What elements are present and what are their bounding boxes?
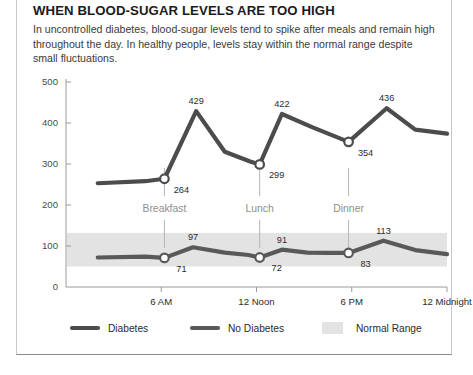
data-value-label: 71 xyxy=(176,264,186,274)
data-value-label: 429 xyxy=(189,96,204,106)
meal-label: Breakfast xyxy=(142,203,186,214)
data-point-marker xyxy=(344,249,353,258)
y-tick-label: 200 xyxy=(42,199,58,210)
data-value-label: 97 xyxy=(188,232,198,242)
data-point-marker xyxy=(344,138,353,147)
x-tick-label: 6 AM xyxy=(150,296,172,307)
legend-label: Normal Range xyxy=(356,323,422,334)
data-value-label: 354 xyxy=(358,148,373,158)
data-value-label: 72 xyxy=(272,263,282,273)
data-value-label: 113 xyxy=(376,226,391,236)
legend-label: Diabetes xyxy=(108,323,148,334)
chart-legend: DiabetesNo DiabetesNormal Range xyxy=(72,322,422,334)
data-point-marker xyxy=(255,160,264,169)
x-tick-label: 12 Midnight xyxy=(422,296,472,307)
y-tick-label: 500 xyxy=(42,76,58,87)
meal-label: Dinner xyxy=(333,203,364,214)
y-tick-label: 0 xyxy=(53,281,58,292)
y-tick-label: 400 xyxy=(42,117,58,128)
blood-sugar-line-chart: 0100200300400500 6 AM12 Noon6 PM12 Midni… xyxy=(0,0,473,375)
chart-container: 0100200300400500 6 AM12 Noon6 PM12 Midni… xyxy=(0,0,473,375)
x-tick-label: 12 Noon xyxy=(238,296,274,307)
data-point-marker xyxy=(160,254,169,263)
x-tick-label: 6 PM xyxy=(341,296,363,307)
y-axis-ticks: 0100200300400500 xyxy=(42,76,71,292)
legend-swatch-box xyxy=(322,322,343,334)
data-value-label: 436 xyxy=(379,93,394,103)
data-value-label: 264 xyxy=(174,185,189,195)
infographic-card: WHEN BLOOD-SUGAR LEVELS ARE TOO HIGH In … xyxy=(0,0,473,375)
data-value-label: 83 xyxy=(360,259,370,269)
meal-label: Lunch xyxy=(246,203,275,214)
data-point-marker xyxy=(255,253,264,262)
data-value-label: 422 xyxy=(274,99,289,109)
x-axis-ticks: 6 AM12 Noon6 PM12 Midnight xyxy=(150,287,472,307)
legend-label: No Diabetes xyxy=(228,323,284,334)
y-tick-label: 100 xyxy=(42,240,58,251)
data-value-label: 299 xyxy=(269,170,284,180)
y-tick-label: 300 xyxy=(42,158,58,169)
data-value-label: 91 xyxy=(277,235,287,245)
data-point-marker xyxy=(160,174,169,183)
